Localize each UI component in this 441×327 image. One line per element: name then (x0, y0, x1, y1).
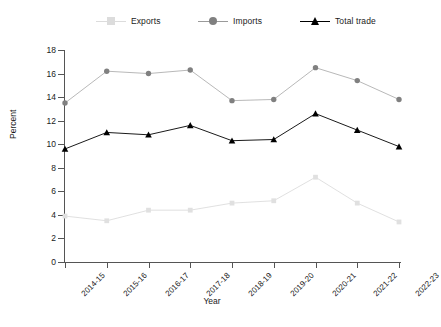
data-point (188, 67, 193, 72)
y-tick (58, 262, 64, 263)
data-point (62, 100, 67, 105)
y-tick (58, 74, 64, 75)
y-tick-label: 18 (0, 45, 56, 55)
data-point (188, 208, 193, 213)
data-point (312, 110, 319, 116)
data-point (146, 71, 151, 76)
data-point (355, 201, 360, 206)
circle-marker-icon (209, 17, 217, 25)
total-trade-legend-symbol (300, 15, 330, 27)
y-tick-label: 0 (0, 257, 56, 267)
data-point (187, 122, 194, 128)
x-tick (232, 263, 233, 268)
legend-label-imports: Imports (233, 16, 262, 26)
x-tick-label: 2014-15 (80, 271, 107, 298)
square-marker-icon (107, 17, 115, 25)
series-svg (65, 50, 400, 262)
legend-item-total-trade: Total trade (300, 12, 376, 30)
y-tick (58, 144, 64, 145)
y-tick (58, 50, 64, 51)
legend-label-total-trade: Total trade (335, 16, 376, 26)
data-point (271, 97, 276, 102)
x-tick (274, 263, 275, 268)
x-axis-title: Year (0, 296, 424, 306)
data-point (104, 218, 109, 223)
triangle-marker-icon (311, 17, 319, 25)
y-tick (58, 121, 64, 122)
x-tick (65, 263, 66, 268)
y-tick-label: 16 (0, 69, 56, 79)
data-point (397, 220, 402, 225)
x-tick (357, 263, 358, 268)
data-point (271, 198, 276, 203)
y-tick (58, 97, 64, 98)
x-tick-label: 2021-22 (372, 271, 399, 298)
legend-item-imports: Imports (198, 12, 262, 30)
series-line-exports (65, 177, 399, 222)
exports-legend-symbol (96, 15, 126, 27)
y-tick-label: 8 (0, 163, 56, 173)
y-tick-label: 2 (0, 233, 56, 243)
y-tick (58, 191, 64, 192)
data-point (146, 208, 151, 213)
y-tick-label: 4 (0, 210, 56, 220)
x-tick (107, 263, 108, 268)
data-point (313, 175, 318, 180)
imports-legend-symbol (198, 15, 228, 27)
data-point (355, 78, 360, 83)
x-tick-label: 2022-23 (414, 271, 441, 298)
y-tick-label: 6 (0, 186, 56, 196)
chart-legend: Exports Imports Total trade (0, 12, 424, 30)
x-tick (399, 263, 400, 268)
data-point (313, 65, 318, 70)
x-tick (190, 263, 191, 268)
x-tick-label: 2019-20 (288, 271, 315, 298)
y-tick-label: 12 (0, 116, 56, 126)
data-point (396, 97, 401, 102)
data-point (230, 201, 235, 206)
x-tick-label: 2015-16 (121, 271, 148, 298)
data-point (62, 146, 69, 152)
x-tick-label: 2020-21 (330, 271, 357, 298)
x-tick-label: 2017-18 (205, 271, 232, 298)
legend-label-exports: Exports (131, 16, 161, 26)
x-tick (149, 263, 150, 268)
series-line-imports (65, 68, 399, 103)
data-point (354, 127, 361, 133)
data-point (104, 69, 109, 74)
y-tick (58, 238, 64, 239)
y-tick (58, 168, 64, 169)
y-tick-label: 10 (0, 139, 56, 149)
plot-area (65, 50, 400, 262)
x-tick-label: 2018-19 (247, 271, 274, 298)
x-tick (316, 263, 317, 268)
x-tick-label: 2016-17 (163, 271, 190, 298)
series-line-total-trade (65, 114, 399, 149)
data-point (396, 143, 403, 149)
y-tick-label: 14 (0, 92, 56, 102)
data-point (63, 214, 68, 219)
legend-item-exports: Exports (96, 12, 161, 30)
data-point (229, 98, 234, 103)
